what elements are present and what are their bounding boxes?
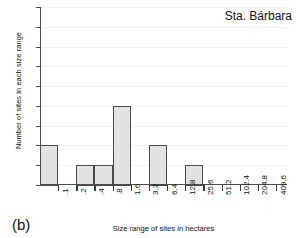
x-axis-tick-label: 12.8	[189, 179, 197, 195]
histogram-bar	[113, 106, 131, 186]
x-axis-tick	[222, 185, 223, 191]
histogram-bar	[40, 145, 58, 186]
y-axis-tick	[36, 47, 40, 48]
y-axis-title: Number of sites in each size range	[14, 1, 23, 181]
x-axis-tick-label: 3.2	[152, 184, 160, 195]
y-axis-tick	[36, 27, 40, 28]
x-axis-tick-label: .8	[116, 188, 124, 195]
y-axis-line	[40, 7, 41, 185]
y-axis-tick	[36, 7, 40, 8]
x-axis-tick	[76, 185, 77, 191]
x-axis-tick-label: .1	[62, 188, 70, 195]
y-axis-tick	[36, 86, 40, 87]
x-axis-tick	[167, 185, 168, 191]
x-axis-tick-label: 6.4	[171, 184, 179, 195]
x-axis-tick	[94, 185, 95, 191]
y-axis-tick	[36, 66, 40, 67]
x-axis-tick	[258, 185, 259, 191]
gridline	[41, 7, 287, 8]
x-axis-tick-label: 102.4	[243, 175, 251, 195]
histogram-bar	[76, 165, 94, 186]
gridline	[41, 86, 287, 87]
histogram-bar	[94, 165, 112, 186]
x-axis-tick-label: 1.6	[134, 184, 142, 195]
x-axis-tick-label: .2	[80, 188, 88, 195]
gridline	[41, 66, 287, 67]
gridline	[41, 27, 287, 28]
histogram-figure: Number of sites in each size range Sta. …	[0, 0, 300, 238]
x-axis-tick-label: 51.2	[225, 179, 233, 195]
x-axis-tick-label: .4	[98, 188, 106, 195]
x-axis-tick	[203, 185, 204, 191]
y-axis-tick	[36, 165, 40, 166]
x-axis-tick-label: 25.6	[207, 179, 215, 195]
y-axis-tick	[36, 126, 40, 127]
gridline	[41, 106, 287, 107]
x-axis-tick	[185, 185, 186, 191]
x-axis-tick	[131, 185, 132, 191]
x-axis-tick-label: 409.6	[280, 175, 288, 195]
panel-letter: (b)	[12, 216, 30, 233]
histogram-bar	[149, 145, 167, 186]
y-axis-tick	[36, 106, 40, 107]
gridline	[41, 126, 287, 127]
x-axis-tick	[113, 185, 114, 191]
y-axis-tick	[36, 185, 40, 186]
x-axis-tick	[149, 185, 150, 191]
x-axis-tick	[58, 185, 59, 191]
plot-area: 123456789 .1.2.4.81.63.26.412.825.651.21…	[40, 7, 287, 185]
x-axis-tick	[240, 185, 241, 191]
y-axis-tick	[36, 145, 40, 146]
x-axis-title: Size range of sites in hectares	[40, 224, 287, 233]
x-axis-tick	[276, 185, 277, 191]
plot-frame: 123456789 .1.2.4.81.63.26.412.825.651.21…	[40, 7, 287, 185]
x-axis-tick-label: 204.8	[261, 175, 269, 195]
gridline	[41, 47, 287, 48]
